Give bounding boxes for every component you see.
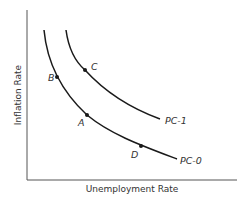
point-b-marker bbox=[55, 75, 59, 79]
point-b-label: B bbox=[48, 72, 55, 83]
phillips-curve-chart: B C A D PC-1 PC-0 Unemployment Rate Infl… bbox=[0, 0, 247, 199]
point-c-marker bbox=[83, 68, 87, 72]
point-d-marker bbox=[139, 144, 143, 148]
pc1-label: PC-1 bbox=[165, 115, 187, 126]
pc0-label: PC-0 bbox=[180, 155, 202, 166]
pc1-curve bbox=[66, 30, 160, 119]
x-axis-label: Unemployment Rate bbox=[86, 184, 179, 194]
y-axis-label: Inflation Rate bbox=[13, 64, 23, 125]
point-c-label: C bbox=[91, 61, 98, 72]
pc0-curve bbox=[44, 30, 177, 159]
point-a-label: A bbox=[77, 117, 85, 128]
point-a-marker bbox=[85, 113, 89, 117]
point-d-label: D bbox=[131, 149, 138, 160]
